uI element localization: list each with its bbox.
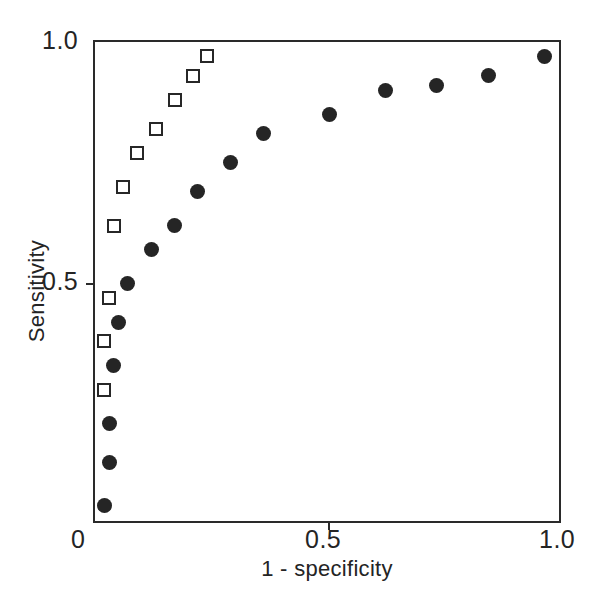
data-point-filled-circles-1	[102, 455, 117, 470]
data-point-filled-circles-11	[322, 107, 337, 122]
plot-area	[93, 40, 561, 523]
x-axis-title: 1 - specificity	[0, 556, 606, 582]
data-point-open-squares-1	[97, 334, 111, 348]
data-point-open-squares-5	[130, 146, 144, 160]
data-point-open-squares-7	[168, 93, 182, 107]
data-point-open-squares-8	[186, 69, 200, 83]
data-point-open-squares-0	[97, 383, 111, 397]
x-axis-tick-0.5	[328, 521, 330, 530]
data-point-filled-circles-14	[481, 68, 496, 83]
data-point-filled-circles-15	[537, 49, 552, 64]
data-point-open-squares-6	[149, 122, 163, 136]
x-axis-tick-label-0: 0	[71, 525, 85, 554]
data-point-filled-circles-7	[167, 218, 182, 233]
y-axis-title: Sensitivity	[24, 211, 50, 371]
data-point-filled-circles-5	[120, 276, 135, 291]
x-axis-tick-label-0.5: 0.5	[305, 525, 341, 554]
data-point-open-squares-4	[116, 180, 130, 194]
data-point-open-squares-2	[102, 291, 116, 305]
data-point-filled-circles-6	[144, 242, 159, 257]
data-point-filled-circles-12	[378, 83, 393, 98]
data-point-filled-circles-3	[106, 358, 121, 373]
x-axis-tick-label-1.0: 1.0	[539, 525, 575, 554]
data-point-filled-circles-9	[223, 155, 238, 170]
data-point-open-squares-9	[200, 49, 214, 63]
data-point-filled-circles-2	[102, 416, 117, 431]
roc-curve-figure: 1.0 0.5 0 0.5 1.0 Sensitivity 1 - specif…	[0, 0, 606, 608]
data-point-open-squares-3	[107, 219, 121, 233]
y-axis-tick-0.5	[86, 283, 95, 285]
data-point-filled-circles-10	[256, 126, 271, 141]
data-point-filled-circles-4	[111, 315, 126, 330]
data-point-filled-circles-13	[429, 78, 444, 93]
data-point-filled-circles-8	[190, 184, 205, 199]
y-axis-tick-label-1.0: 1.0	[42, 26, 78, 55]
data-point-filled-circles-0	[97, 498, 112, 513]
